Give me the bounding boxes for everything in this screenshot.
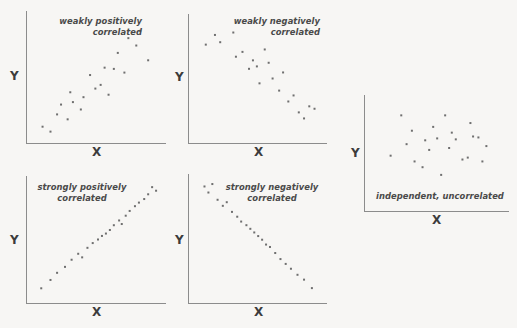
y-axis-label: Y	[175, 234, 184, 246]
scatter-point	[77, 253, 79, 255]
scatter-point	[207, 192, 209, 194]
scatter-point	[314, 108, 316, 110]
scatter-point	[481, 160, 483, 162]
scatter-point	[100, 84, 102, 86]
x-axis-label: X	[92, 306, 101, 318]
scatter-points-independent	[390, 114, 488, 176]
x-axis-label: X	[254, 306, 263, 318]
scatter-point	[296, 274, 298, 276]
scatter-point	[151, 186, 153, 188]
panel-weakly-positive: Y X weakly positively correlated	[0, 0, 175, 160]
scatter-point	[123, 72, 125, 74]
scatter-point	[117, 52, 119, 54]
scatter-point	[222, 205, 224, 207]
scatter-points-weakly-negative	[205, 32, 316, 120]
scatter-point	[252, 59, 254, 61]
scatter-point	[249, 228, 251, 230]
scatter-point	[298, 111, 300, 113]
panel-strongly-negative: Y X strongly negatively correlated	[175, 168, 350, 328]
scatter-point	[285, 263, 287, 265]
scatter-point	[40, 287, 42, 289]
scatter-point	[49, 279, 51, 281]
scatter-point	[129, 210, 131, 212]
scatter-point	[287, 100, 289, 102]
scatter-point	[245, 224, 247, 226]
scatter-point	[256, 65, 258, 67]
scatter-point	[217, 199, 219, 201]
panel-independent: Y X independent, uncorrelated	[350, 92, 517, 232]
scatter-point	[231, 211, 233, 213]
scatter-point	[485, 145, 487, 147]
scatter-point	[241, 51, 243, 53]
scatter-point	[86, 247, 88, 249]
scatter-point	[269, 246, 271, 248]
scatter-point	[290, 268, 292, 270]
scatter-point	[253, 231, 255, 233]
scatter-point	[72, 101, 74, 103]
scatter-point	[64, 266, 66, 268]
scatter-point	[89, 74, 91, 76]
scatter-point	[211, 183, 213, 185]
scatter-point	[469, 122, 471, 124]
scatter-point	[205, 44, 207, 46]
scatter-point	[279, 258, 281, 260]
panel-strongly-positive: Y X strongly positively correlated	[0, 168, 175, 328]
scatter-point	[135, 45, 137, 47]
scatter-point	[264, 48, 266, 50]
scatter-point	[432, 126, 434, 128]
scatter-point	[203, 185, 205, 187]
x-axis-label: X	[92, 146, 101, 158]
scatter-point	[80, 108, 82, 110]
scatter-point	[422, 166, 424, 168]
scatter-point	[390, 155, 392, 157]
scatter-point	[108, 94, 110, 96]
scatter-point	[236, 216, 238, 218]
scatter-point	[265, 244, 267, 246]
scatter-point	[81, 256, 83, 258]
scatter-point	[282, 71, 284, 73]
scatter-point	[97, 239, 99, 241]
scatter-point	[272, 78, 274, 80]
scatter-point	[118, 219, 120, 221]
scatter-point	[69, 91, 71, 93]
scatter-point	[101, 235, 103, 237]
scatter-point	[109, 229, 111, 231]
caption-weakly-negative: weakly negatively correlated	[213, 16, 320, 38]
plot-area-independent	[350, 92, 517, 232]
scatter-point	[424, 139, 426, 141]
scatter-point	[455, 138, 457, 140]
scatter-point	[155, 190, 157, 192]
scatter-point	[477, 136, 479, 138]
scatter-point	[436, 137, 438, 139]
y-axis-label: Y	[175, 71, 184, 83]
scatter-point	[414, 160, 416, 162]
scatter-point	[67, 118, 69, 120]
scatter-point	[134, 205, 136, 207]
scatter-point	[461, 159, 463, 161]
scatter-point	[311, 287, 313, 289]
scatter-point	[240, 221, 242, 223]
panel-weakly-negative: Y X weakly negatively correlated	[175, 0, 350, 160]
scatter-point	[448, 147, 450, 149]
scatter-point	[105, 233, 107, 235]
scatter-point	[440, 174, 442, 176]
scatter-point	[113, 224, 115, 226]
scatter-point	[406, 143, 408, 145]
scatter-point	[274, 252, 276, 254]
scatter-point	[235, 56, 237, 58]
scatter-point	[60, 104, 62, 106]
scatter-point	[428, 149, 430, 151]
x-axis-label: X	[254, 146, 263, 158]
scatter-point	[94, 88, 96, 90]
scatter-point	[138, 202, 140, 204]
scatter-point	[147, 193, 149, 195]
scatter-point	[82, 96, 84, 98]
scatter-point	[308, 105, 310, 107]
correlation-scatterplot-figure: Y X weakly positively correlated Y X wea…	[0, 0, 517, 328]
scatter-point	[257, 235, 259, 237]
caption-independent: independent, uncorrelated	[376, 191, 512, 202]
y-axis-label: Y	[10, 234, 19, 246]
scatter-point	[467, 157, 469, 159]
scatter-point	[92, 242, 94, 244]
scatter-point	[268, 62, 270, 64]
